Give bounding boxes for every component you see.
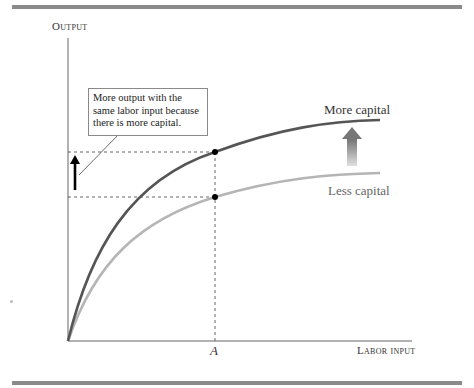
diagram-canvas <box>0 0 474 388</box>
output-increase-arrow-icon <box>70 155 80 190</box>
bottom-rule <box>12 381 462 385</box>
scan-speck <box>10 300 13 303</box>
y-axis-label: Output <box>52 20 88 32</box>
upper-point <box>212 149 218 155</box>
callout-box: More output with the same labor input be… <box>88 88 208 136</box>
capital-shift-arrow-icon <box>342 127 362 166</box>
x-tick-a-label: A <box>210 343 218 359</box>
x-axis-label: Labor input <box>357 344 416 356</box>
less-capital-label: Less capital <box>328 183 390 199</box>
more-capital-label: More capital <box>324 102 390 118</box>
callout-leader <box>79 133 120 175</box>
more-capital-curve <box>68 120 380 341</box>
lower-point <box>212 194 218 200</box>
